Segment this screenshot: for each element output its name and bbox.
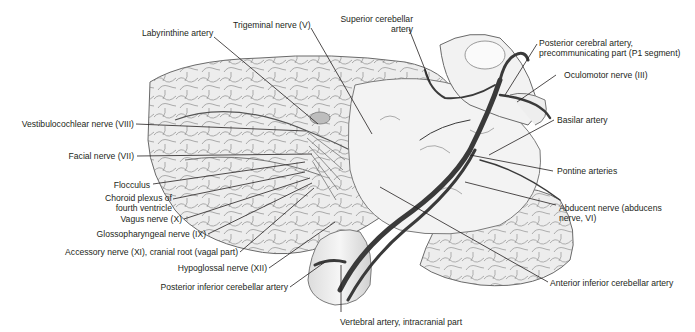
label-choroid-plexus-line2: fourth ventricle [60, 203, 172, 213]
label-trigeminal-nerve: Trigeminal nerve (V) [233, 20, 311, 30]
label-posterior-cerebral-artery: Posterior cerebral artery, precommunicat… [539, 38, 680, 58]
label-flocculus: Flocculus [0, 180, 150, 190]
label-glossopharyngeal-nerve: Glossopharyngeal nerve (IX) [0, 229, 206, 239]
label-accessory-nerve: Accessory nerve (XI), cranial root (vaga… [0, 247, 238, 257]
label-vestibulocochlear-nerve: Vestibulocochlear nerve (VIII) [0, 119, 134, 129]
label-anterior-inferior-cerebellar-artery: Anterior inferior cerebellar artery [550, 278, 673, 288]
anatomy-figure: Labyrinthine artery Trigeminal nerve (V)… [0, 0, 695, 332]
label-basilar-artery: Basilar artery [557, 115, 608, 125]
label-pontine-arteries: Pontine arteries [557, 166, 617, 176]
label-posterior-cerebral-artery-line1: Posterior cerebral artery, [539, 38, 680, 48]
label-vertebral-artery: Vertebral artery, intracranial part [340, 317, 462, 327]
label-facial-nerve: Facial nerve (VII) [0, 151, 134, 161]
label-abducent-nerve: Abducent nerve (abducens nerve, VI) [559, 203, 662, 223]
label-superior-cerebellar-artery-line1: Superior cerebellar [330, 14, 413, 24]
label-hypoglossal-nerve: Hypoglossal nerve (XII) [0, 263, 267, 273]
label-choroid-plexus-line1: Choroid plexus of [60, 193, 172, 203]
label-superior-cerebellar-artery-line2: artery [330, 24, 413, 34]
label-vagus-nerve: Vagus nerve (X) [0, 214, 182, 224]
label-abducent-nerve-line1: Abducent nerve (abducens [559, 203, 662, 213]
label-choroid-plexus: Choroid plexus of fourth ventricle [60, 193, 172, 213]
label-posterior-inferior-cerebellar-artery: Posterior inferior cerebellar artery [0, 282, 288, 292]
label-posterior-cerebral-artery-line2: precommunicating part (P1 segment) [539, 48, 680, 58]
label-oculomotor-nerve: Oculomotor nerve (III) [564, 70, 648, 80]
label-labyrinthine-artery: Labyrinthine artery [142, 28, 213, 38]
label-superior-cerebellar-artery: Superior cerebellar artery [330, 14, 413, 34]
label-abducent-nerve-line2: nerve, VI) [559, 213, 662, 223]
